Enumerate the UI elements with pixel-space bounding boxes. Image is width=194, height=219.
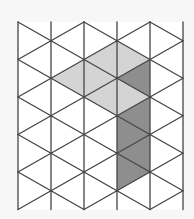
isometric-grid-canvas: [0, 0, 194, 219]
triangular-grid-diagram: [0, 0, 194, 219]
